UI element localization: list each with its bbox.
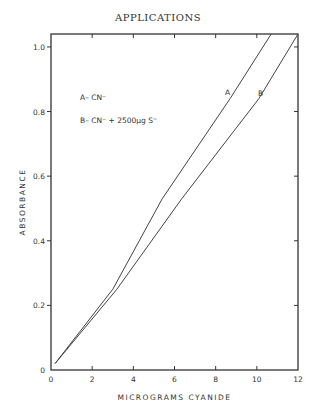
y-tick-label: 1.0 bbox=[33, 43, 45, 52]
y-tick-label: 0.8 bbox=[33, 108, 45, 117]
series-line-b bbox=[55, 34, 298, 364]
x-axis-title: MICROGRAMS CYANIDE bbox=[117, 393, 231, 402]
x-tick-label: 4 bbox=[131, 375, 136, 384]
y-axis-title: ABSORBANCE bbox=[18, 169, 27, 236]
curve-label-b: B bbox=[258, 89, 263, 98]
legend: A– CN⁻ B– CN⁻ + 2500µg S⁼ bbox=[80, 86, 157, 132]
x-tick-label: 12 bbox=[293, 375, 303, 384]
legend-item-b: B– CN⁻ + 2500µg S⁼ bbox=[80, 109, 157, 132]
series-line-a bbox=[55, 34, 271, 364]
legend-item-a: A– CN⁻ bbox=[80, 86, 157, 109]
x-tick-label: 0 bbox=[49, 375, 54, 384]
x-tick-label: 10 bbox=[252, 375, 262, 384]
plot-frame bbox=[51, 34, 298, 370]
y-tick-label: 0.2 bbox=[33, 301, 45, 310]
x-tick-label: 8 bbox=[213, 375, 218, 384]
y-tick-label: 0.4 bbox=[33, 237, 45, 246]
line-chart: 02468101200.20.40.60.81.0MICROGRAMS CYAN… bbox=[0, 0, 316, 402]
x-tick-label: 6 bbox=[172, 375, 177, 384]
y-tick-label: 0.6 bbox=[33, 172, 45, 181]
y-tick-label: 0 bbox=[40, 366, 45, 375]
x-tick-label: 2 bbox=[90, 375, 95, 384]
curve-label-a: A bbox=[225, 88, 231, 97]
